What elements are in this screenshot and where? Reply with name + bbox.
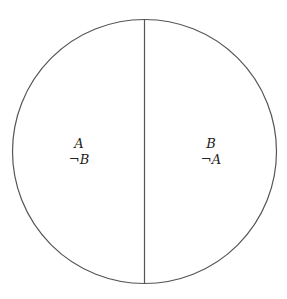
left-region-line2-var: B — [80, 152, 90, 167]
right-region-line2: ¬A — [191, 152, 231, 168]
negation-symbol: ¬ — [69, 152, 80, 167]
circle-diagram — [0, 0, 287, 299]
left-region-label: A ¬B — [59, 136, 99, 168]
negation-symbol: ¬ — [201, 152, 212, 167]
right-region-line2-var: A — [212, 152, 221, 167]
right-region-label: B ¬A — [191, 136, 231, 168]
left-region-line1: A — [59, 136, 99, 152]
right-region-line1: B — [191, 136, 231, 152]
left-region-line2: ¬B — [59, 152, 99, 168]
